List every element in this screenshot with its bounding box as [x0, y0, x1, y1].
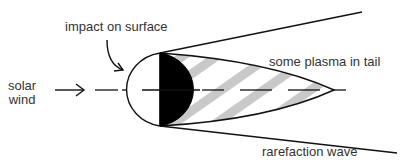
impact-arrow-icon — [107, 40, 123, 71]
impact-on-surface-label: impact on surface — [65, 20, 168, 34]
solar-wind-arrow-icon — [55, 84, 84, 96]
solar-wind-interaction-diagram: impact on surface solar wind some plasma… — [0, 0, 419, 167]
diagram-canvas — [0, 0, 419, 167]
solar-wind-label: solar wind — [8, 79, 36, 107]
rarefaction-wave-label: rarefaction wave — [262, 145, 357, 159]
plasma-tail-label: some plasma in tail — [269, 55, 380, 69]
rarefaction-line-upper — [160, 12, 362, 53]
